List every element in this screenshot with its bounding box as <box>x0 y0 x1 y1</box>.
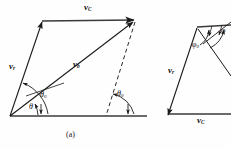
vector-vc-top-arrow <box>42 20 134 21</box>
angle-arc-theta0-right <box>113 94 134 114</box>
dashed-parallel-side <box>106 22 135 116</box>
vector-vb-diagonal-arrow <box>10 22 133 116</box>
panel-a-geometry <box>10 20 147 116</box>
panel-b-diagonal <box>198 29 231 76</box>
phi-tick-arrow <box>219 25 222 35</box>
panel-b-vector-vr-arrow <box>168 28 197 115</box>
vector-diagram-svg <box>0 0 231 149</box>
angle-arc-theta <box>35 104 38 115</box>
phi0-tick-arrow <box>209 26 212 36</box>
angle-arc-theta0-left <box>23 83 48 114</box>
construction-ray <box>26 83 64 96</box>
figure-container: vC vr vb θ0 θ θ0 (a) vr vC φ0 φ <box>0 0 231 149</box>
panel-b-geometry <box>168 22 231 115</box>
vector-vr-arrow <box>10 22 42 116</box>
